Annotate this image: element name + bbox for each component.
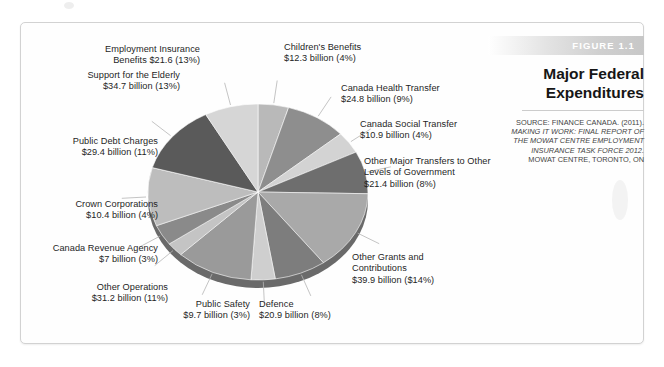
callout-line: Canada Social Transfer bbox=[360, 119, 484, 130]
callout-line: $34.7 billion (13%) bbox=[54, 81, 180, 92]
callout-canada-health-transfer: Canada Health Transfer $24.8 billion (9%… bbox=[341, 83, 465, 106]
callout-line: Children's Benefits bbox=[284, 42, 404, 53]
callout-defence: Defence $20.9 billion (8%) bbox=[259, 299, 369, 322]
source-line: SOURCE: FINANCE CANADA. (2011). bbox=[472, 118, 644, 127]
callout-support-for-the-elderly: Support for the Elderly $34.7 billion (1… bbox=[54, 70, 180, 93]
leader-line bbox=[225, 83, 231, 105]
callout-public-safety: Public Safety $9.7 billion (3%) bbox=[178, 299, 250, 322]
leader-line bbox=[358, 233, 380, 244]
source-line: THE MOWAT CENTRE EMPLOYMENT bbox=[472, 136, 644, 145]
callout-crown-corporations: Crown Corporations $10.4 billion (4%) bbox=[34, 199, 158, 222]
pie-slice-group bbox=[148, 104, 368, 280]
callout-line: $9.7 billion (3%) bbox=[178, 310, 250, 321]
callout-line: Support for the Elderly bbox=[54, 70, 180, 81]
callout-line: Benefits $21.6 (13%) bbox=[68, 55, 200, 66]
pie-chart: Employment Insurance Benefits $21.6 (13%… bbox=[0, 0, 470, 367]
callout-line: $12.3 billion (4%) bbox=[284, 53, 404, 64]
callout-canada-revenue-agency: Canada Revenue Agency $7 billion (3%) bbox=[22, 243, 158, 266]
callout-line: Defence bbox=[259, 299, 369, 310]
source-line: INSURANCE TASK FORCE 2012. bbox=[472, 146, 644, 155]
callout-line: Public Debt Charges bbox=[40, 136, 158, 147]
figure-title: Major Federal Expenditures bbox=[478, 64, 644, 102]
callout-line: Other Operations bbox=[42, 282, 168, 293]
callout-other-operations: Other Operations $31.2 billion (11%) bbox=[42, 282, 168, 305]
callout-line: Canada Health Transfer bbox=[341, 83, 465, 94]
callout-line: Other Grants and bbox=[352, 252, 476, 263]
figure-title-line: Major Federal bbox=[478, 64, 644, 83]
callout-other-grants: Other Grants and Contributions $39.9 bil… bbox=[352, 252, 476, 286]
caption-panel: FIGURE 1.1 Major Federal Expenditures SO… bbox=[470, 22, 644, 344]
leader-line bbox=[318, 97, 331, 116]
callout-line: $10.4 billion (4%) bbox=[34, 210, 158, 221]
callout-line: Public Safety bbox=[178, 299, 250, 310]
figure-number-label: FIGURE 1.1 bbox=[572, 40, 635, 51]
callout-line: Canada Revenue Agency bbox=[22, 243, 158, 254]
callout-childrens-benefits: Children's Benefits $12.3 billion (4%) bbox=[284, 42, 404, 65]
callout-line: $20.9 billion (8%) bbox=[259, 310, 369, 321]
callout-canada-social-transfer: Canada Social Transfer $10.9 billion (4%… bbox=[360, 119, 484, 142]
callout-line: $10.9 billion (4%) bbox=[360, 130, 484, 141]
figure-source-note: SOURCE: FINANCE CANADA. (2011). MAKING I… bbox=[472, 118, 644, 164]
callout-line: $7 billion (3%) bbox=[22, 254, 158, 265]
callout-line: Crown Corporations bbox=[34, 199, 158, 210]
callout-line: $24.8 billion (9%) bbox=[341, 94, 465, 105]
source-line: MOWAT CENTRE, TORONTO, ON bbox=[472, 155, 644, 164]
source-line: MAKING IT WORK: FINAL REPORT OF bbox=[472, 127, 644, 136]
callout-line: Employment Insurance bbox=[68, 44, 200, 55]
caption-divider bbox=[522, 110, 644, 111]
leader-line bbox=[274, 81, 277, 104]
figure-title-line: Expenditures bbox=[478, 83, 644, 102]
leader-line bbox=[152, 121, 171, 135]
callout-employment-insurance: Employment Insurance Benefits $21.6 (13%… bbox=[68, 44, 200, 67]
callout-line: $39.9 billion ($14%) bbox=[352, 275, 476, 286]
callout-line: Contributions bbox=[352, 263, 476, 274]
callout-line: $29.4 billion (11%) bbox=[40, 147, 158, 158]
callout-public-debt-charges: Public Debt Charges $29.4 billion (11%) bbox=[40, 136, 158, 159]
callout-line: $31.2 billion (11%) bbox=[42, 293, 168, 304]
figure-number-banner: FIGURE 1.1 bbox=[488, 36, 644, 55]
